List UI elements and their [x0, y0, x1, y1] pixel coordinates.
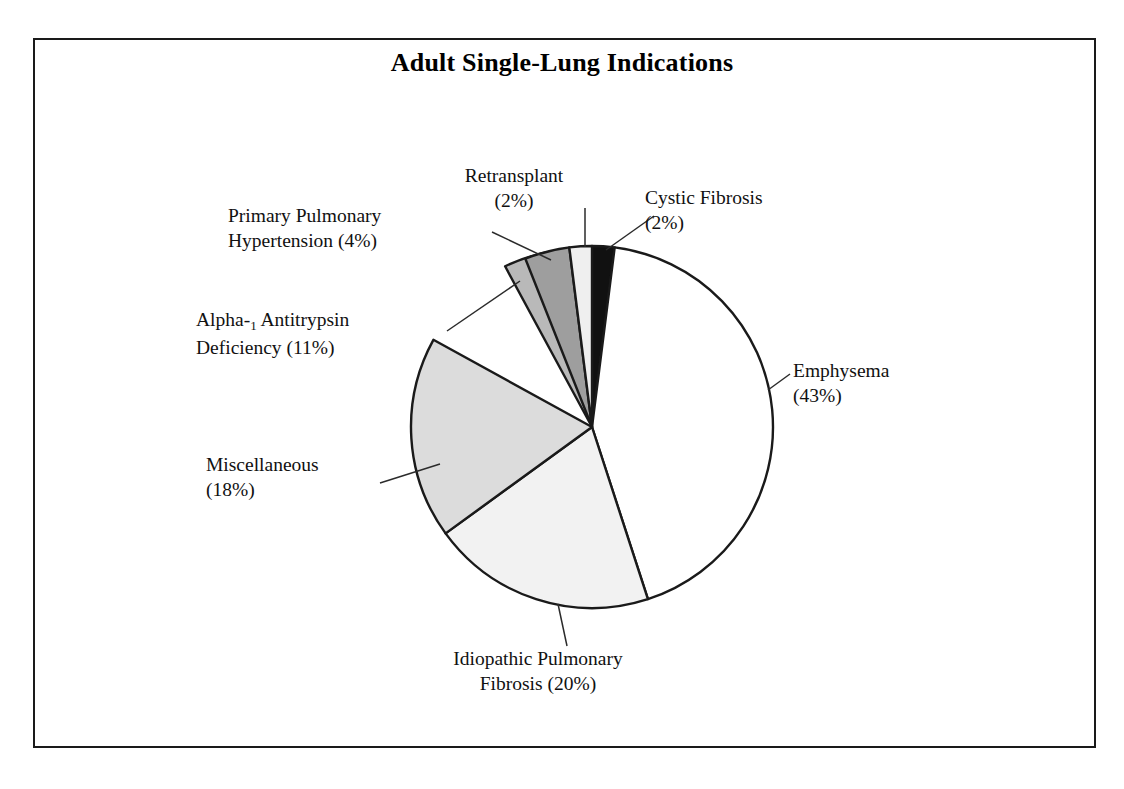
slice-label-alpha1-antitrypsin-deficiency: Alpha-1 Antitrypsin Deficiency (11%): [196, 307, 492, 360]
slice-label-miscellaneous-line2: (18%): [206, 477, 492, 502]
slice-label-alpha1-line1-post: Antitrypsin: [257, 309, 350, 330]
slice-label-miscellaneous-line1: Miscellaneous: [206, 452, 492, 477]
slice-label-idiopathic-pulmonary-fibrosis: Idiopathic Pulmonary Fibrosis (20%): [402, 646, 674, 697]
slice-label-ipf-line2: Fibrosis (20%): [402, 671, 674, 696]
slice-label-cystic-fibrosis-line2: (2%): [645, 210, 875, 235]
page-title: Adult Single-Lung Indications: [0, 48, 1124, 78]
slice-label-cystic-fibrosis-line1: Cystic Fibrosis: [645, 185, 875, 210]
slice-label-retransplant-line1: Retransplant: [424, 163, 604, 188]
slice-label-emphysema-line1: Emphysema: [793, 358, 1023, 383]
slice-label-pph-line1: Primary Pulmonary: [228, 203, 492, 228]
slice-label-alpha1-line1: Alpha-1 Antitrypsin: [196, 307, 492, 335]
slice-label-emphysema-line2: (43%): [793, 383, 1023, 408]
slice-label-pph-line2: Hypertension (4%): [228, 228, 492, 253]
slice-label-emphysema: Emphysema (43%): [793, 358, 1023, 409]
slice-label-primary-pulmonary-hypertension: Primary Pulmonary Hypertension (4%): [228, 203, 492, 254]
slice-label-alpha1-line1-pre: Alpha-: [196, 309, 250, 330]
slice-label-cystic-fibrosis: Cystic Fibrosis (2%): [645, 185, 875, 236]
slice-label-miscellaneous: Miscellaneous (18%): [206, 452, 492, 503]
slice-label-alpha1-line2: Deficiency (11%): [196, 335, 492, 360]
slice-label-ipf-line1: Idiopathic Pulmonary: [402, 646, 674, 671]
